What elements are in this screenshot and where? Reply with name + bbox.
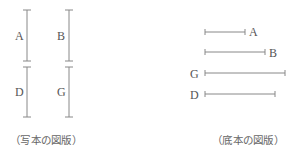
segment-label-g: G [57, 85, 66, 99]
segment-a: A [205, 25, 258, 39]
segment-label-b: B [57, 29, 65, 43]
segment-label-g: G [190, 67, 199, 81]
base-text-figure: ABGD [190, 25, 285, 102]
segment-label-a: A [15, 29, 24, 43]
base-text-figure-caption: （底本の図版） [212, 132, 284, 147]
manuscript-figure: ABDG [15, 10, 73, 117]
segment-label-a: A [249, 25, 258, 39]
segment-d: D [15, 67, 31, 117]
segment-label-d: D [190, 88, 199, 102]
manuscript-figure-caption: （写本の図版） [10, 132, 82, 147]
segment-label-b: B [269, 46, 277, 60]
segment-b: B [57, 10, 73, 61]
segment-d: D [190, 88, 275, 102]
segment-g: G [57, 67, 73, 117]
segment-label-d: D [15, 85, 24, 99]
segment-a: A [15, 10, 31, 61]
segment-b: B [205, 46, 277, 60]
segment-g: G [190, 67, 285, 81]
